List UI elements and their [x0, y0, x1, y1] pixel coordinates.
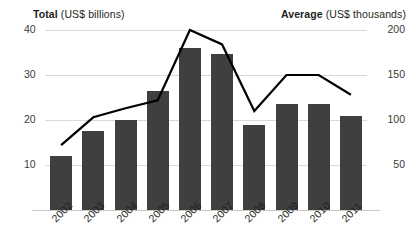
bar — [308, 104, 330, 210]
left-axis-title: Total (US$ billions) — [33, 8, 125, 20]
right-axis-tick-label: 150 — [387, 68, 405, 80]
right-axis-tick-label: 100 — [387, 113, 405, 125]
gridline — [45, 30, 367, 31]
bar — [211, 54, 233, 210]
bar — [115, 120, 137, 210]
right-axis-tick-label: 50 — [393, 158, 405, 170]
right-axis-title: Average (US$ thousands) — [281, 8, 406, 20]
left-axis-tick-label: 10 — [24, 158, 36, 170]
gridline — [45, 75, 367, 76]
right-axis-title-unit: (US$ thousands) — [323, 8, 406, 20]
left-axis-tick-label: 40 — [24, 23, 36, 35]
left-axis-title-unit: (US$ billions) — [58, 8, 125, 20]
bar — [179, 48, 201, 210]
bar — [276, 104, 298, 210]
right-axis-tick-label: 200 — [387, 23, 405, 35]
bar — [340, 116, 362, 211]
left-axis-tick-label: 20 — [24, 113, 36, 125]
bar — [82, 131, 104, 210]
bar — [243, 125, 265, 211]
bar — [147, 91, 169, 210]
left-axis-title-bold: Total — [33, 8, 58, 20]
left-axis-tick-label: 30 — [24, 68, 36, 80]
right-axis-title-bold: Average — [281, 8, 323, 20]
chart-container: Total (US$ billions) Average (US$ thousa… — [0, 0, 412, 250]
